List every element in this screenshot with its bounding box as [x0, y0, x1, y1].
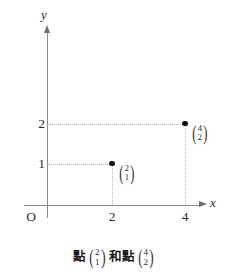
- left-paren: (: [89, 247, 93, 268]
- column-vector-4-2: ( 4 2 ): [191, 123, 209, 143]
- vector-components: 4 2: [144, 248, 149, 267]
- x-axis-arrow-icon: [199, 201, 207, 207]
- y-axis-line: [47, 32, 48, 218]
- caption-text-before: 點: [73, 251, 86, 264]
- y-axis-arrow-icon: [44, 25, 50, 33]
- gridline-vertical-x4: [185, 124, 186, 205]
- vector-bottom-value: 2: [198, 133, 202, 142]
- x-axis-line: [24, 205, 201, 206]
- right-paren: ): [203, 123, 207, 143]
- coordinate-plane-figure: y x O 2 4 1 2 ( 2 1 ) ( 4 2 ): [0, 0, 228, 272]
- x-tick-label-4: 4: [177, 210, 193, 224]
- figure-caption: 點 ( 2 1 ) 和點 ( 4 2 ): [0, 247, 228, 268]
- point-label-4-2: ( 4 2 ): [191, 123, 209, 144]
- data-point-2-1: [109, 161, 115, 167]
- caption-column-vector-2-1: ( 2 1 ): [88, 247, 107, 268]
- vector-bottom-value: 1: [125, 173, 129, 182]
- left-paren: (: [138, 247, 142, 268]
- vector-components: 2 1: [125, 164, 129, 182]
- x-axis-label: x: [210, 196, 216, 209]
- vector-bottom-value: 1: [95, 258, 100, 268]
- origin-label: O: [23, 210, 39, 224]
- point-label-2-1: ( 2 1 ): [118, 163, 136, 184]
- left-paren: (: [119, 163, 123, 183]
- caption-column-vector-4-2: ( 4 2 ): [137, 247, 156, 268]
- y-tick-label-2: 2: [29, 117, 45, 131]
- x-tick-label-2: 2: [104, 210, 120, 224]
- column-vector-2-1: ( 2 1 ): [118, 163, 136, 183]
- left-paren: (: [192, 123, 196, 143]
- right-paren: ): [101, 247, 105, 268]
- caption-text-middle: 和點: [109, 251, 135, 264]
- gridline-horizontal-y2: [48, 124, 185, 125]
- y-axis-label: y: [41, 8, 47, 21]
- gridline-horizontal-y1: [48, 164, 112, 165]
- right-paren: ): [130, 163, 134, 183]
- vector-bottom-value: 2: [144, 258, 149, 268]
- vector-components: 4 2: [198, 124, 202, 142]
- data-point-4-2: [182, 121, 188, 127]
- vector-components: 2 1: [95, 248, 100, 267]
- right-paren: ): [149, 247, 153, 268]
- gridline-vertical-x2: [112, 164, 113, 205]
- y-tick-label-1: 1: [29, 157, 45, 171]
